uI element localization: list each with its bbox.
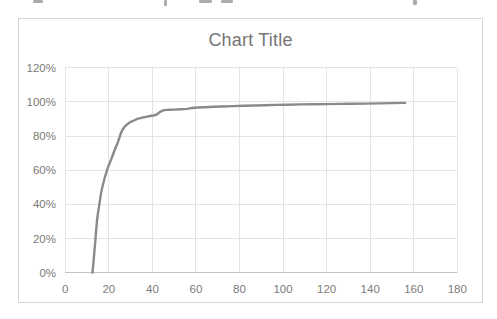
y-tick-label: 100% <box>27 96 56 108</box>
x-tick-label: 120 <box>317 283 336 295</box>
y-tick-label: 120% <box>27 62 56 74</box>
x-tick-label: 180 <box>448 283 467 295</box>
y-tick-label: 0% <box>39 267 56 279</box>
x-tick-label: 100 <box>273 283 292 295</box>
x-tick-label: 80 <box>233 283 246 295</box>
x-tick-label: 40 <box>146 283 159 295</box>
y-tick-label: 40% <box>33 198 56 210</box>
x-tick-label: 20 <box>102 283 115 295</box>
x-tick-label: 60 <box>190 283 203 295</box>
y-tick-label: 60% <box>33 164 56 176</box>
x-tick-label: 0 <box>62 283 68 295</box>
plot-area[interactable]: 0204060801001201401601800%20%40%60%80%10… <box>0 0 497 319</box>
y-tick-label: 20% <box>33 233 56 245</box>
y-tick-label: 80% <box>33 130 56 142</box>
x-tick-label: 160 <box>404 283 423 295</box>
x-tick-label: 140 <box>361 283 380 295</box>
data-series-line[interactable] <box>93 103 406 273</box>
